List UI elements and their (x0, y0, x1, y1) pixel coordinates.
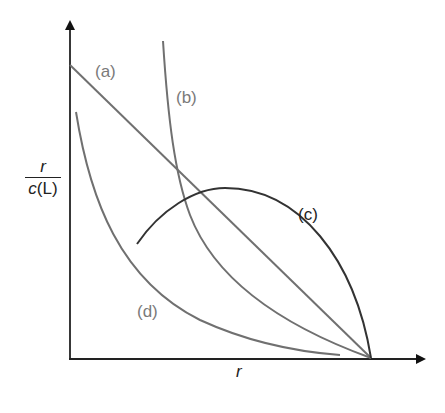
series-a-label: (a) (95, 62, 116, 82)
y-axis-label: r c(L) (22, 158, 64, 199)
y-axis-label-denominator: c(L) (22, 179, 64, 199)
chart-canvas (0, 0, 445, 413)
series-b-label: (b) (176, 88, 197, 108)
y-den-arg: (L) (37, 179, 58, 198)
series-c-curve (137, 188, 371, 358)
y-axis-label-numerator: r (22, 158, 64, 176)
fraction-bar (25, 177, 61, 178)
series-d-curve (76, 112, 340, 355)
x-axis-label: r (236, 362, 242, 382)
series-d-label: (d) (137, 302, 158, 322)
series-a-line (70, 65, 371, 358)
y-den-var: c (28, 179, 37, 198)
series-c-label: (c) (298, 205, 318, 225)
